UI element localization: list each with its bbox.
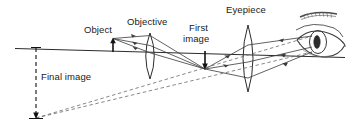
label-objective: Objective xyxy=(127,16,168,27)
eyepiece-lens xyxy=(243,25,253,92)
microscope-ray-diagram: Object Objective First image Eyepiece Fi… xyxy=(0,0,361,132)
label-object: Object xyxy=(84,24,112,35)
optical-axis xyxy=(15,49,345,58)
objective-lens xyxy=(146,33,155,79)
final-image-arrow xyxy=(29,48,43,120)
diagram-canvas xyxy=(0,0,361,132)
ray-bundle-object-to-objective xyxy=(113,34,150,53)
ray-bundle-first-image-to-eyepiece xyxy=(205,45,248,78)
ray-bundle-eyepiece-to-eye xyxy=(248,36,312,78)
label-first-image-line2: image xyxy=(183,33,209,44)
label-first-image-line1: First xyxy=(189,22,208,33)
eye-drawing xyxy=(296,12,346,57)
label-eyepiece: Eyepiece xyxy=(226,4,266,15)
label-final-image: Final image xyxy=(41,71,91,82)
